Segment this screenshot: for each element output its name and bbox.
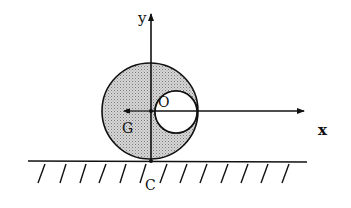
center-label-o: O	[158, 94, 169, 110]
x-axis-label: x	[318, 121, 328, 139]
c-point	[149, 159, 153, 163]
rolling-disk-diagram: y x O G C	[0, 0, 351, 208]
c-label: C	[145, 177, 156, 193]
y-axis-label: y	[137, 9, 147, 27]
o-point	[149, 109, 153, 113]
ground-hatching	[38, 164, 289, 183]
g-label: G	[122, 120, 133, 136]
diagram-canvas: y x O G C	[0, 0, 351, 208]
ground	[28, 161, 307, 183]
g-point	[126, 109, 130, 113]
ground-line	[28, 161, 307, 162]
